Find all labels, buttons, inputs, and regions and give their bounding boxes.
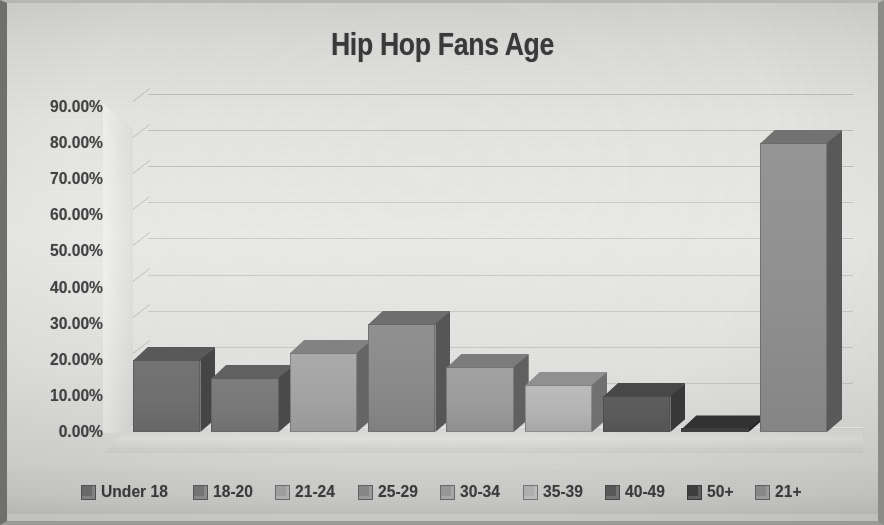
bar-21-[interactable] bbox=[760, 130, 827, 432]
bar-30-34[interactable] bbox=[446, 354, 513, 432]
bar-front-face bbox=[133, 360, 200, 432]
legend-swatch-icon bbox=[440, 485, 455, 500]
y-axis-tick-label: 70.00% bbox=[24, 169, 103, 189]
y-axis-tick-label: 50.00% bbox=[24, 241, 103, 261]
legend-swatch-icon bbox=[523, 485, 538, 500]
gridline bbox=[148, 94, 853, 95]
y-axis-tick-label: 0.00% bbox=[24, 422, 103, 442]
legend-item-label: 30-34 bbox=[460, 482, 500, 502]
legend-item-21-24[interactable]: 21-24 bbox=[275, 482, 338, 502]
bar-40-49[interactable] bbox=[603, 383, 670, 432]
legend-item-label: 40-49 bbox=[625, 482, 665, 502]
legend-swatch-icon bbox=[755, 485, 770, 500]
legend-item-21-[interactable]: 21+ bbox=[755, 482, 804, 502]
chart-image-frame: Hip Hop Fans Age 90.00%80.00%70.00%60.00… bbox=[0, 0, 884, 525]
bar-front-face bbox=[290, 353, 357, 432]
gridline bbox=[148, 130, 853, 131]
gridline bbox=[148, 275, 853, 276]
legend-swatch-icon bbox=[687, 485, 702, 500]
bar-front-face bbox=[368, 324, 435, 432]
gridline bbox=[148, 166, 853, 167]
legend-item-50-[interactable]: 50+ bbox=[687, 482, 736, 502]
y-axis-labels: 90.00%80.00%70.00%60.00%50.00%40.00%30.0… bbox=[17, 3, 103, 473]
bar-25-29[interactable] bbox=[368, 311, 435, 432]
chart-plot-area: 90.00%80.00%70.00%60.00%50.00%40.00%30.0… bbox=[7, 3, 884, 473]
bar-under-18[interactable] bbox=[133, 347, 200, 432]
legend-item-25-29[interactable]: 25-29 bbox=[358, 482, 421, 502]
legend-item-30-34[interactable]: 30-34 bbox=[440, 482, 503, 502]
legend-item-label: Under 18 bbox=[101, 482, 168, 502]
gridline bbox=[148, 347, 853, 348]
y-axis-tick-label: 10.00% bbox=[24, 386, 103, 406]
legend-item-40-49[interactable]: 40-49 bbox=[605, 482, 668, 502]
y-axis-tick-label: 80.00% bbox=[24, 133, 103, 153]
bar-front-face bbox=[603, 396, 670, 432]
legend-swatch-icon bbox=[275, 485, 290, 500]
gridline bbox=[148, 311, 853, 312]
legend-item-35-39[interactable]: 35-39 bbox=[523, 482, 586, 502]
y-axis-tick-label: 30.00% bbox=[24, 314, 103, 334]
bar-18-20[interactable] bbox=[211, 365, 278, 432]
bar-35-39[interactable] bbox=[525, 372, 592, 432]
y-axis-tick-label: 20.00% bbox=[24, 350, 103, 370]
y-axis-tick-label: 90.00% bbox=[24, 97, 103, 117]
legend-item-label: 25-29 bbox=[378, 482, 418, 502]
bar-front-face bbox=[446, 367, 513, 432]
bar-21-24[interactable] bbox=[290, 340, 357, 432]
y-axis-tick-label: 40.00% bbox=[24, 278, 103, 298]
bar-front-face bbox=[211, 378, 278, 432]
y-axis-tick-label: 60.00% bbox=[24, 205, 103, 225]
legend-item-under-18[interactable]: Under 18 bbox=[81, 482, 174, 502]
legend-item-label: 21-24 bbox=[295, 482, 335, 502]
gridline bbox=[148, 238, 853, 239]
legend-item-label: 21+ bbox=[775, 482, 802, 502]
bar-front-face bbox=[760, 143, 827, 432]
legend-item-label: 18-20 bbox=[213, 482, 253, 502]
chart-legend: Under 1818-2021-2425-2930-3435-3940-4950… bbox=[7, 470, 878, 514]
legend-item-18-20[interactable]: 18-20 bbox=[193, 482, 256, 502]
gridline bbox=[148, 202, 853, 203]
legend-swatch-icon bbox=[358, 485, 373, 500]
bar-side-face bbox=[827, 130, 842, 432]
bar-front-face bbox=[525, 385, 592, 432]
legend-swatch-icon bbox=[81, 485, 96, 500]
legend-item-label: 35-39 bbox=[543, 482, 583, 502]
bar-50-[interactable] bbox=[681, 415, 748, 432]
bar-front-face bbox=[681, 428, 748, 432]
legend-swatch-icon bbox=[605, 485, 620, 500]
legend-swatch-icon bbox=[193, 485, 208, 500]
legend-item-label: 50+ bbox=[707, 482, 734, 502]
